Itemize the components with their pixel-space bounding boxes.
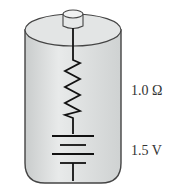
voltage-label: 1.5 V: [131, 143, 162, 159]
resistance-label: 1.0 Ω: [131, 83, 162, 99]
positive-terminal: [63, 10, 83, 29]
